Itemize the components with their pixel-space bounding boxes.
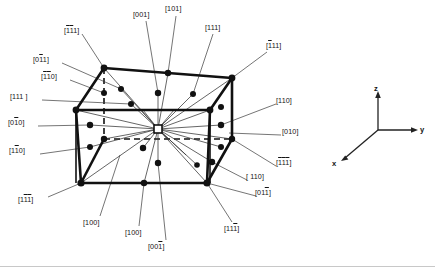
label-010: [010] [282,127,299,136]
lattice-point [190,91,196,97]
lattice-point [218,104,224,110]
axis-label-y: y [420,125,424,134]
lattice-point [77,179,84,186]
label-111-top: [111] [205,23,220,32]
lattice-point [101,90,107,96]
label-11-bar1: [111] [224,224,239,233]
label-0-bar1-1: [011] [33,55,49,64]
label-110-upper: [110] [276,96,292,105]
lattice-point [155,160,161,166]
label-01-bar1: [011] [255,188,271,197]
label-100-b: [100] [125,228,142,237]
lattice-point [229,136,235,142]
lattice-point [218,144,224,150]
label-00-bar1: [001] [148,242,165,251]
lattice-point [229,75,236,82]
label-bar1-bar1-0: [110] [41,72,57,81]
lattice-point [165,70,171,76]
lattice-point [194,162,200,168]
lattice-point [155,90,161,96]
lattice-point [207,107,214,114]
crystal-direction-figure: [111] [001] [101] [111] [111] [011] [110… [0,0,435,267]
origin-marker [154,125,162,133]
label-111-left: [111 ] [10,92,28,101]
label-bar1-1-1: [111] [266,41,281,50]
axis-arrowheads [341,91,418,161]
lattice-point [73,107,80,114]
lattice-point [141,180,147,186]
label-bar1-bar1-bar1: [111] [276,158,291,167]
lattice-point [101,136,107,142]
lattice-point [209,159,215,165]
axis-triad [345,95,414,158]
lattice-point [128,101,134,107]
label-0-bar1-0: [010] [8,118,25,127]
lattice-point [218,122,224,128]
label-1-bar1-bar1: [111] [18,195,33,204]
lattice-point [118,86,124,92]
lattice-point [87,122,93,128]
label-101: [101] [165,4,182,13]
label-1-bar1-0: [110] [9,146,25,155]
label-100-a: [100] [83,218,100,227]
lattice-point [203,179,210,186]
lattice-point [101,65,108,72]
lattice-point [87,144,93,150]
label-110-lower: [ 110] [246,172,264,181]
axis-label-z: z [374,84,378,93]
label-001: [001] [133,10,150,19]
axis-label-x: x [332,159,336,168]
diagram-canvas [0,0,435,267]
lattice-point [140,145,146,151]
label-bar1-bar1-1: [111] [64,26,79,35]
